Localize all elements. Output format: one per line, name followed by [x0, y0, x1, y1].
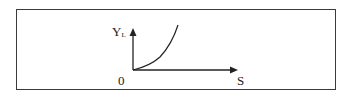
diagram-canvas: YL 0 S — [0, 0, 349, 98]
x-axis-label: S — [237, 73, 244, 88]
y-axis-label: YL — [112, 24, 126, 39]
y-axis-arrow-icon — [130, 28, 137, 36]
yl-curve — [133, 25, 178, 70]
origin-label: 0 — [118, 73, 125, 88]
